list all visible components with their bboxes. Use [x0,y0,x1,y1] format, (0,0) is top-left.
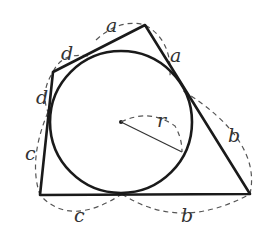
label-d-left: d [36,86,48,108]
label-b-bottom: b [181,204,193,226]
label-c-bottom: c [74,204,85,226]
label-a-right: a [170,44,181,66]
label-b-right: b [228,124,240,146]
label-a-top: a [106,14,117,36]
label-r: r [157,109,168,131]
radius-arc [121,116,182,152]
label-c-left: c [25,142,36,164]
radius-line [121,122,182,152]
tangential-quadrilateral-diagram: a a d d c c b b r [0,0,263,232]
label-d-top: d [61,42,73,64]
